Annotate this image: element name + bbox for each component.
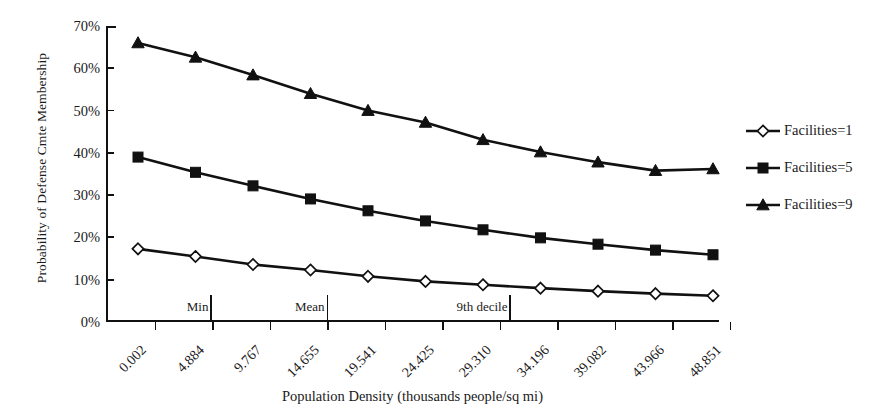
square-filled-marker-icon [191, 167, 201, 177]
square-filled-marker-icon [708, 250, 718, 260]
y-axis-tick-label: 70% [73, 18, 100, 35]
x-axis-title: Population Density (thousands people/sq … [106, 388, 719, 405]
diamond-open-marker-icon [420, 276, 431, 287]
chart-figure: Probability of Defense Cmte Membership 0… [0, 0, 892, 417]
square-filled-marker-icon [593, 239, 603, 249]
series-line [138, 43, 713, 171]
series-1 [132, 243, 718, 301]
x-axis-tick-label: 9.767 [215, 342, 264, 391]
y-axis-tick-label: 40% [73, 144, 100, 161]
diamond-open-marker-icon [745, 123, 781, 139]
diamond-open-marker-icon [535, 283, 546, 294]
legend-item-facilities-1[interactable]: Facilities=1 [745, 112, 892, 149]
square-filled-marker-icon [248, 181, 258, 191]
diamond-open-marker-icon [707, 290, 718, 301]
x-axis-tick-label: 14.655 [273, 342, 322, 391]
y-axis-tick-label: 60% [73, 60, 100, 77]
legend-item-facilities-9[interactable]: Facilities=9 [745, 186, 892, 223]
x-axis-tick-label: 39.082 [560, 342, 609, 391]
plot-area: MinMean9th decile [106, 26, 719, 322]
series-3 [132, 37, 719, 176]
legend-item-facilities-5[interactable]: Facilities=5 [745, 149, 892, 186]
y-axis-tick-label: 30% [73, 187, 100, 204]
y-axis-tick-label: 50% [73, 102, 100, 119]
y-axis-tick-label: 20% [73, 229, 100, 246]
x-axis-tick-label: 43.966 [618, 342, 667, 391]
diamond-open-marker-icon [757, 125, 768, 136]
series-line [138, 249, 713, 296]
series-2 [133, 152, 718, 260]
x-axis-tick-label: 29.310 [445, 342, 494, 391]
diamond-open-marker-icon [190, 251, 201, 262]
chart-legend: Facilities=1 Facilities=5 Facilities=9 [745, 112, 892, 223]
legend-item-label: Facilities=5 [784, 159, 853, 176]
diamond-open-marker-icon [592, 286, 603, 297]
square-filled-marker-icon [478, 225, 488, 235]
square-filled-marker-icon [421, 216, 431, 226]
x-axis-tick-label: 19.541 [330, 342, 379, 391]
x-axis-tick-labels: 0.0024.8849.76714.65519.54124.42529.3103… [0, 324, 892, 394]
x-axis-tick-label: 24.425 [388, 342, 437, 391]
square-filled-marker-icon [536, 233, 546, 243]
legend-item-label: Facilities=1 [784, 122, 853, 139]
triangle-filled-marker-icon [745, 197, 781, 213]
legend-item-label: Facilities=9 [784, 196, 853, 213]
x-axis-tick-label: 0.002 [100, 342, 149, 391]
square-filled-marker-icon [306, 194, 316, 204]
series-layer [106, 26, 719, 322]
square-filled-marker-icon [363, 206, 373, 216]
diamond-open-marker-icon [132, 243, 143, 254]
x-axis-tick-label: 4.884 [158, 342, 207, 391]
diamond-open-marker-icon [305, 264, 316, 275]
series-line [138, 157, 713, 255]
diamond-open-marker-icon [247, 259, 258, 270]
y-axis-tick-label: 10% [73, 271, 100, 288]
square-filled-marker-icon [745, 160, 781, 176]
square-filled-marker-icon [133, 152, 143, 162]
square-filled-marker-icon [758, 163, 768, 173]
x-axis-tick-label: 48.851 [675, 342, 724, 391]
x-axis-tick-label: 34.196 [503, 342, 552, 391]
diamond-open-marker-icon [477, 279, 488, 290]
diamond-open-marker-icon [650, 288, 661, 299]
diamond-open-marker-icon [362, 271, 373, 282]
triangle-filled-marker-icon [132, 37, 144, 48]
square-filled-marker-icon [651, 245, 661, 255]
